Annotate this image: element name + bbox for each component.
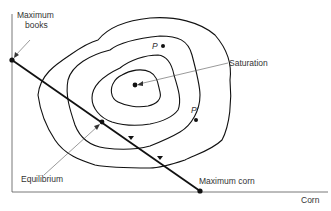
budget-line xyxy=(12,60,200,191)
p-label: P xyxy=(152,42,158,51)
arrow-icon xyxy=(128,136,134,140)
point-p xyxy=(161,44,165,48)
max-books-leader xyxy=(15,40,30,56)
equilibrium-leader xyxy=(44,126,98,175)
x-axis-label: Corn xyxy=(301,196,319,205)
equilibrium-point xyxy=(100,120,105,125)
max-books-label-2: books xyxy=(25,21,48,30)
point-p-prime xyxy=(194,118,198,122)
saturation-label: Saturation xyxy=(229,59,268,68)
max-corn-point xyxy=(197,188,202,193)
equilibrium-label: Equilibrium xyxy=(21,175,63,184)
arrow-icon xyxy=(137,81,143,86)
arrow-icon xyxy=(157,156,163,160)
max-books-point xyxy=(9,57,14,62)
p-prime-label: P′ xyxy=(191,106,198,115)
contour-2 xyxy=(67,36,200,149)
saturation-point xyxy=(133,83,138,88)
contour-3 xyxy=(92,55,180,125)
max-corn-label: Maximum corn xyxy=(199,177,255,186)
contour-4 xyxy=(111,70,160,107)
max-books-label-1: Maximum xyxy=(17,11,54,20)
